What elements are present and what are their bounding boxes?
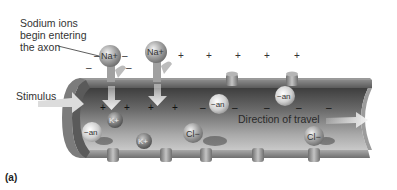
charge-plus: +	[206, 50, 212, 62]
sodium-ion-1-label: Na+	[101, 50, 118, 62]
charge-plus: +	[124, 102, 130, 114]
charge-minus: –	[232, 102, 238, 114]
charge-minus: –	[86, 62, 92, 74]
stimulus-label: Stimulus	[16, 90, 56, 102]
sodium-ion-2-label: Na+	[147, 46, 164, 58]
charge-minus: –	[94, 50, 100, 62]
potassium-ion-1-label: K+	[109, 115, 119, 127]
charge-minus: –	[264, 102, 270, 114]
anion-2-label: −an	[211, 99, 225, 111]
charge-minus: –	[126, 62, 132, 74]
annotation-leader-line	[58, 46, 99, 56]
charge-plus: +	[148, 102, 154, 114]
charge-minus: –	[122, 50, 128, 62]
sodium-annotation-line-2: begin entering	[20, 29, 87, 41]
charge-plus: +	[235, 50, 241, 62]
sodium-annotation-line-1: Sodium ions	[20, 17, 78, 29]
potassium-ion-2-label: K+	[138, 136, 148, 148]
sodium-annotation-line-3: the axon	[20, 41, 60, 53]
charge-plus: +	[178, 50, 184, 62]
anion-3-label: −an	[277, 91, 291, 103]
charge-plus: +	[264, 50, 270, 62]
charge-plus: +	[100, 102, 106, 114]
anion-1-label: −an	[84, 127, 98, 139]
chloride-ion-1-label: Cl−	[186, 128, 200, 140]
panel-label: (a)	[5, 172, 17, 184]
chloride-ion-2-label: Cl−	[307, 131, 321, 143]
direction-label: Direction of travel	[238, 113, 320, 125]
charge-minus: –	[326, 102, 332, 114]
charge-plus: +	[294, 50, 300, 62]
charge-plus: +	[172, 102, 178, 114]
charge-minus: –	[200, 102, 206, 114]
charge-minus: –	[296, 102, 302, 114]
